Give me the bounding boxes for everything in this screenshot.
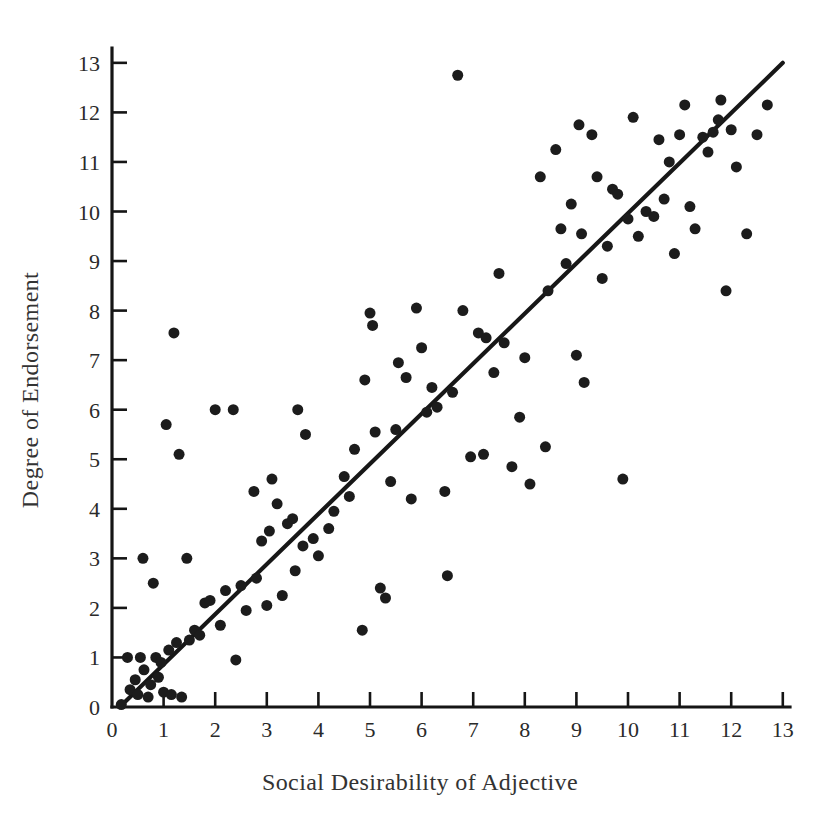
data-point <box>452 70 463 81</box>
y-tick-label: 7 <box>89 348 100 373</box>
data-point <box>416 342 427 353</box>
y-tick-label: 6 <box>89 398 100 423</box>
data-point <box>488 367 499 378</box>
data-point <box>210 404 221 415</box>
data-point <box>132 689 143 700</box>
data-point <box>349 444 360 455</box>
data-point <box>674 129 685 140</box>
data-point <box>752 129 763 140</box>
data-point <box>684 201 695 212</box>
data-point <box>313 550 324 561</box>
data-point <box>230 654 241 665</box>
data-point <box>385 476 396 487</box>
data-point <box>690 223 701 234</box>
y-tick-label: 11 <box>79 150 100 175</box>
data-point <box>220 585 231 596</box>
data-point <box>184 635 195 646</box>
data-point <box>540 441 551 452</box>
data-point <box>344 491 355 502</box>
regression-line <box>120 63 783 707</box>
data-point <box>367 320 378 331</box>
scatter-plot-figure: 012345678910111213012345678910111213 Soc… <box>0 0 830 825</box>
data-point <box>432 402 443 413</box>
data-point <box>401 372 412 383</box>
data-point <box>592 171 603 182</box>
x-tick-label: 6 <box>416 717 427 742</box>
data-point <box>156 657 167 668</box>
data-point <box>715 95 726 106</box>
x-tick-label: 8 <box>519 717 530 742</box>
data-point <box>359 374 370 385</box>
data-point <box>741 228 752 239</box>
data-point <box>653 134 664 145</box>
data-point <box>266 474 277 485</box>
x-tick-label: 5 <box>365 717 376 742</box>
data-point <box>535 171 546 182</box>
data-point <box>762 99 773 110</box>
data-point <box>166 689 177 700</box>
data-point <box>174 449 185 460</box>
y-tick-label: 4 <box>89 497 100 522</box>
y-tick-label: 2 <box>89 596 100 621</box>
data-point <box>168 327 179 338</box>
data-point <box>447 387 458 398</box>
data-point <box>248 486 259 497</box>
data-point <box>328 506 339 517</box>
data-point <box>494 268 505 279</box>
plot-canvas: 012345678910111213012345678910111213 Soc… <box>0 0 830 825</box>
x-tick-label: 7 <box>468 717 479 742</box>
y-tick-label: 1 <box>89 645 100 670</box>
y-tick-label: 5 <box>89 447 100 472</box>
data-point <box>300 429 311 440</box>
y-tick-label: 12 <box>78 100 100 125</box>
data-point <box>721 285 732 296</box>
data-point <box>726 124 737 135</box>
data-point <box>561 258 572 269</box>
data-point <box>176 692 187 703</box>
data-point <box>478 449 489 460</box>
data-point <box>628 112 639 123</box>
data-point <box>457 305 468 316</box>
data-point <box>370 426 381 437</box>
data-point <box>571 350 582 361</box>
data-point <box>702 147 713 158</box>
data-point <box>426 382 437 393</box>
data-point <box>323 523 334 534</box>
y-tick-label: 10 <box>78 200 100 225</box>
x-tick-label: 4 <box>313 717 324 742</box>
data-point <box>499 337 510 348</box>
data-point <box>439 486 450 497</box>
data-point <box>135 652 146 663</box>
data-point <box>138 664 149 675</box>
data-point <box>519 352 530 363</box>
x-tick-label: 2 <box>210 717 221 742</box>
data-point <box>481 332 492 343</box>
x-tick-label: 11 <box>669 717 690 742</box>
x-tick-label: 1 <box>158 717 169 742</box>
data-point <box>194 630 205 641</box>
x-tick-label: 9 <box>571 717 582 742</box>
data-point <box>623 213 634 224</box>
data-point <box>116 699 127 710</box>
data-point <box>375 583 386 594</box>
data-point <box>272 498 283 509</box>
data-point <box>339 471 350 482</box>
data-point <box>566 199 577 210</box>
data-point <box>365 308 376 319</box>
data-point <box>122 652 133 663</box>
data-point <box>602 241 613 252</box>
data-point <box>380 592 391 603</box>
data-point <box>648 211 659 222</box>
data-point <box>205 595 216 606</box>
y-tick-label: 13 <box>78 51 100 76</box>
axes <box>112 48 790 707</box>
data-point <box>236 580 247 591</box>
data-point <box>697 132 708 143</box>
data-point <box>256 536 267 547</box>
data-point <box>406 493 417 504</box>
data-point <box>297 540 308 551</box>
data-point <box>617 474 628 485</box>
data-point <box>161 419 172 430</box>
data-point <box>612 189 623 200</box>
data-point <box>411 303 422 314</box>
